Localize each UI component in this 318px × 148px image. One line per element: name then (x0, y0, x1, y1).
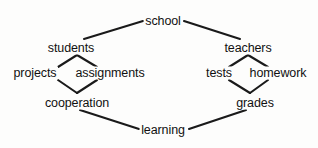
concept-map-diagram: schoolstudentsteachersprojectsassignment… (0, 0, 318, 148)
node-cooperation[interactable]: cooperation (43, 97, 110, 110)
node-assignments[interactable]: assignments (74, 67, 146, 80)
edge-projects-cooperation (58, 80, 77, 93)
edge-cooperation-learning (80, 110, 139, 129)
edge-homework-grades (250, 80, 268, 93)
edge-assignments-cooperation (77, 80, 97, 93)
node-students[interactable]: students (46, 42, 95, 55)
node-learning[interactable]: learning (140, 124, 187, 137)
node-school[interactable]: school (144, 15, 183, 28)
edge-students-projects (58, 55, 77, 67)
edge-tests-grades (229, 80, 250, 93)
node-teachers[interactable]: teachers (223, 42, 273, 55)
node-projects[interactable]: projects (12, 67, 58, 80)
node-tests[interactable]: tests (205, 67, 234, 80)
node-grades[interactable]: grades (235, 97, 276, 110)
node-homework[interactable]: homework (248, 67, 308, 80)
edge-teachers-tests (229, 55, 248, 67)
edge-school-teachers (184, 21, 240, 39)
edge-school-students (84, 21, 143, 39)
edge-grades-learning (189, 110, 246, 129)
